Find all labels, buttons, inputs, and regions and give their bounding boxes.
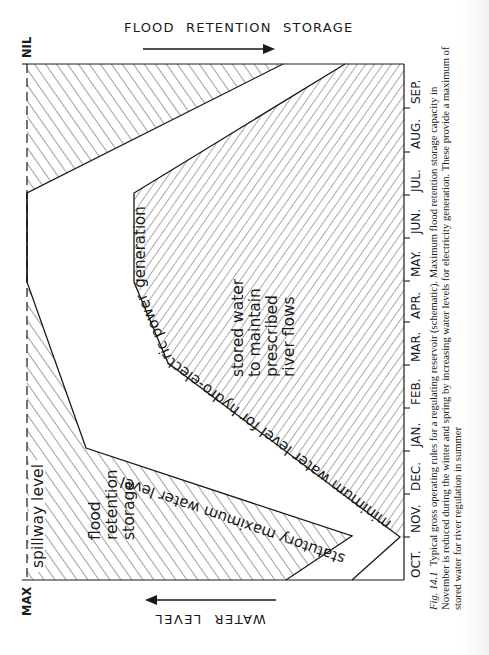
month-label: NOV.: [409, 504, 423, 533]
month-label: MAR.: [409, 332, 423, 362]
month-label: MAY.: [409, 251, 423, 277]
right-arrow-icon: [143, 44, 275, 54]
page-edge-shadow: [459, 0, 489, 655]
month-label: OCT.: [409, 550, 423, 578]
stored-water-label-line3: prescribed: [263, 295, 281, 377]
stored-water-label-line4: river flows: [280, 296, 298, 377]
flood-retention-label-line1: flood: [86, 501, 104, 540]
flood-retention-label-line2: retention: [103, 469, 121, 540]
stored-water-label-line2: to maintain: [246, 288, 264, 377]
caption-text: Typical gross operating rules for a regu…: [428, 47, 463, 610]
figure-number: Fig. 14.1: [428, 571, 439, 610]
month-label: DEC.: [409, 462, 423, 491]
left-arrow-icon: [145, 595, 276, 605]
nil-label: NIL: [20, 36, 34, 58]
max-label: MAX: [20, 587, 34, 616]
month-label: JUL.: [409, 169, 423, 193]
month-label: AUG.: [409, 119, 423, 149]
spillway-level-label: spillway level: [29, 464, 47, 568]
reservoir-operating-rules-diagram: OCT. NOV. DEC. JAN. FEB. MAR. APR. MAY. …: [0, 0, 489, 655]
month-label: JUN.: [409, 209, 423, 235]
month-label: APR.: [409, 292, 423, 319]
month-label: FEB.: [409, 378, 423, 405]
month-label: JAN.: [409, 423, 423, 448]
stored-water-label-line1: stored water: [229, 278, 247, 377]
month-label: SEP.: [409, 80, 423, 104]
month-labels: OCT. NOV. DEC. JAN. FEB. MAR. APR. MAY. …: [409, 80, 423, 578]
